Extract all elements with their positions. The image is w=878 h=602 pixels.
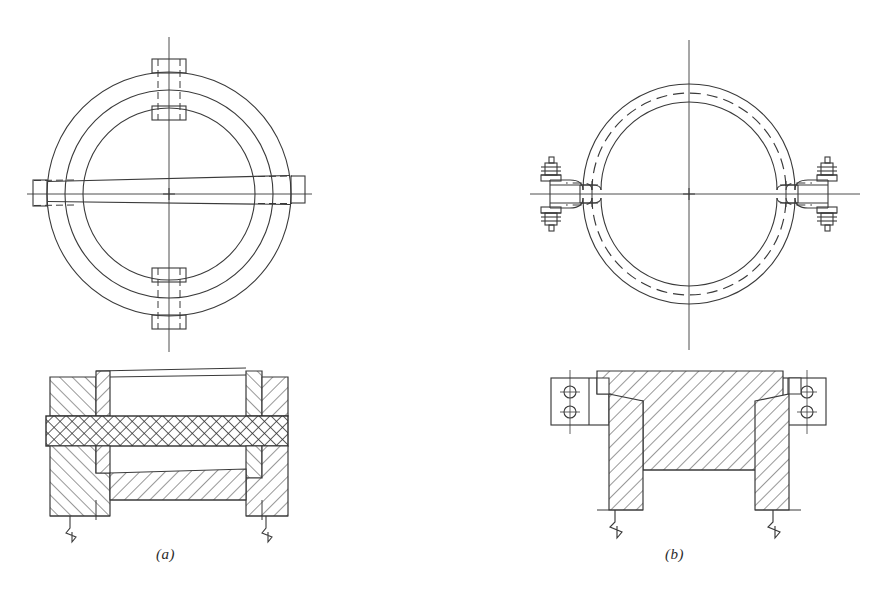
- caption-a: (a): [156, 546, 175, 563]
- section-a-right-upper-lip: [262, 377, 288, 416]
- section-b-right-leg: [755, 394, 789, 510]
- drawing-sheet: (a) (b): [0, 0, 878, 602]
- caption-b: (b): [665, 546, 684, 563]
- section-b-left-leg-notch: [597, 378, 609, 394]
- section-a-right-upper-lip-inner: [246, 371, 262, 416]
- section-a-center-plate: [110, 469, 246, 500]
- sheet-background: [0, 0, 878, 602]
- section-a-left-lower-body-inner: [96, 446, 110, 473]
- section-a-left-upper-lip: [50, 377, 96, 416]
- section-b-left-leg: [609, 394, 643, 510]
- section-a-right-lower-body-inner: [246, 446, 262, 478]
- technical-drawing-svg: [0, 0, 878, 602]
- section-a-gasket-strip: [46, 416, 288, 446]
- section-a-left-upper-lip-inner: [96, 371, 110, 416]
- section-b-right-leg-notch: [789, 378, 801, 394]
